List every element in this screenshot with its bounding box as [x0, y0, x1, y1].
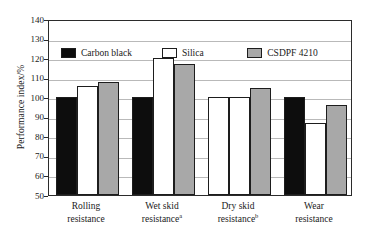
- legend-swatch-silica: [162, 48, 177, 58]
- bar-carbon-black-0: [56, 97, 77, 195]
- x-axis-label-line2: resistancea: [124, 213, 200, 226]
- legend-item-silica: Silica: [162, 48, 247, 58]
- x-axis-label-line1: Dry skid: [200, 200, 276, 213]
- x-axis-label-line1: Rolling: [48, 200, 124, 213]
- legend-item-csdpf-4210: CSDPF 4210: [247, 48, 343, 58]
- legend-label-silica: Silica: [182, 48, 204, 58]
- legend-swatch-carbon-black: [61, 48, 76, 58]
- x-axis-category-label: Rollingresistance: [48, 200, 124, 225]
- legend-label-carbon-black: Carbon black: [81, 48, 132, 58]
- y-axis-tick-label: 50: [8, 192, 48, 201]
- bar-carbon-black-2: [208, 97, 229, 195]
- y-axis-tick-label: 80: [8, 133, 48, 142]
- bar-silica-0: [77, 86, 98, 196]
- bar-csdpf-4210-1: [174, 64, 195, 195]
- x-axis-label-line2: resistanceb: [200, 213, 276, 226]
- bar-silica-1: [153, 58, 174, 195]
- legend-label-csdpf-4210: CSDPF 4210: [267, 48, 317, 58]
- y-axis-tick-label: 140: [8, 16, 48, 25]
- footnote-marker: b: [255, 211, 258, 218]
- x-axis-category-label: Wearresistance: [276, 200, 352, 225]
- y-axis-title: Performance index/%: [14, 19, 28, 195]
- y-axis-tick-label: 130: [8, 35, 48, 44]
- bar-csdpf-4210-0: [98, 82, 119, 195]
- y-axis-tick-label: 70: [8, 152, 48, 161]
- bar-carbon-black-3: [284, 97, 305, 195]
- y-axis-tick-mark: [44, 196, 48, 197]
- y-axis-tick-label: 60: [8, 172, 48, 181]
- bar-csdpf-4210-2: [250, 88, 271, 195]
- footnote-marker: a: [179, 211, 182, 218]
- y-axis-tick-label: 120: [8, 55, 48, 64]
- y-axis-tick-label: 110: [8, 74, 48, 83]
- bar-silica-3: [305, 123, 326, 195]
- legend-item-carbon-black: Carbon black: [61, 48, 162, 58]
- y-axis-tick-label: 90: [8, 113, 48, 122]
- legend-swatch-csdpf-4210: [247, 48, 262, 58]
- x-axis-category-label: Dry skidresistanceb: [200, 200, 276, 225]
- y-axis-tick-label: 100: [8, 94, 48, 103]
- x-axis-category-label: Wet skidresistancea: [124, 200, 200, 225]
- bar-chart-figure: Performance index/% 50607080901001101201…: [0, 0, 370, 243]
- x-axis-label-line2: resistance: [48, 213, 124, 226]
- x-axis-label-line2: resistance: [276, 213, 352, 226]
- x-axis-category-labels: RollingresistanceWet skidresistanceaDry …: [48, 200, 352, 240]
- bar-carbon-black-1: [132, 97, 153, 195]
- plot-area: Carbon black Silica CSDPF 4210: [48, 20, 352, 196]
- x-axis-label-line1: Wear: [276, 200, 352, 213]
- bar-csdpf-4210-3: [326, 105, 347, 195]
- x-axis-label-line1: Wet skid: [124, 200, 200, 213]
- chart-legend: Carbon black Silica CSDPF 4210: [61, 45, 343, 61]
- bar-silica-2: [229, 97, 250, 195]
